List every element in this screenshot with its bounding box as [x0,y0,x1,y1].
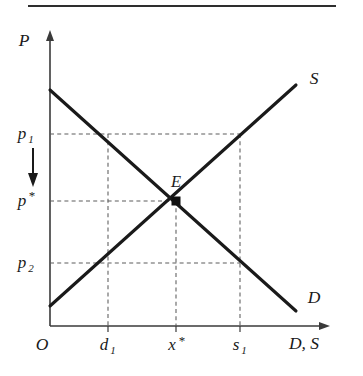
supply-curve [50,85,296,306]
chart-canvas: P D, S O S D E p 1 p * p 2 d 1 [0,0,363,376]
x-tick-label-d1-sub: 1 [110,344,116,356]
x-axis-label: D, S [288,333,319,353]
equilibrium-label: E [170,172,181,191]
x-tick-label-s1-sub: 1 [241,344,247,356]
origin-label: O [36,334,49,354]
y-axis-arrowhead [46,30,54,41]
price-adjustment-arrow-head [28,173,38,187]
x-tick-label-s1-base: s [233,335,240,354]
y-tick-label-p2: p 2 [17,253,35,274]
x-tick-label-d1: d 1 [100,335,116,356]
x-axis-arrowhead [319,322,330,330]
x-tick-label-xstar-star: * [179,333,186,348]
supply-curve-label: S [310,68,319,88]
y-tick-label-p1: p 1 [17,124,34,145]
x-tick-label-d1-base: d [100,335,109,354]
x-tick-label-s1: s 1 [233,335,247,356]
y-tick-label-p1-base: p [17,124,27,143]
y-axis-label: P [18,30,30,50]
y-tick-label-p2-base: p [17,253,27,272]
y-tick-label-p1-sub: 1 [28,133,34,145]
x-tick-label-xstar-base: x [167,335,176,354]
y-tick-label-pstar-star: * [29,188,36,203]
y-tick-label-pstar: p * [17,188,36,210]
y-tick-label-p2-sub: 2 [28,262,34,274]
demand-curve-label: D [307,287,321,307]
y-tick-label-pstar-base: p [17,191,27,210]
x-tick-label-xstar: x * [167,333,185,354]
equilibrium-point-marker [172,197,181,206]
supply-demand-figure: P D, S O S D E p 1 p * p 2 d 1 [0,0,363,376]
